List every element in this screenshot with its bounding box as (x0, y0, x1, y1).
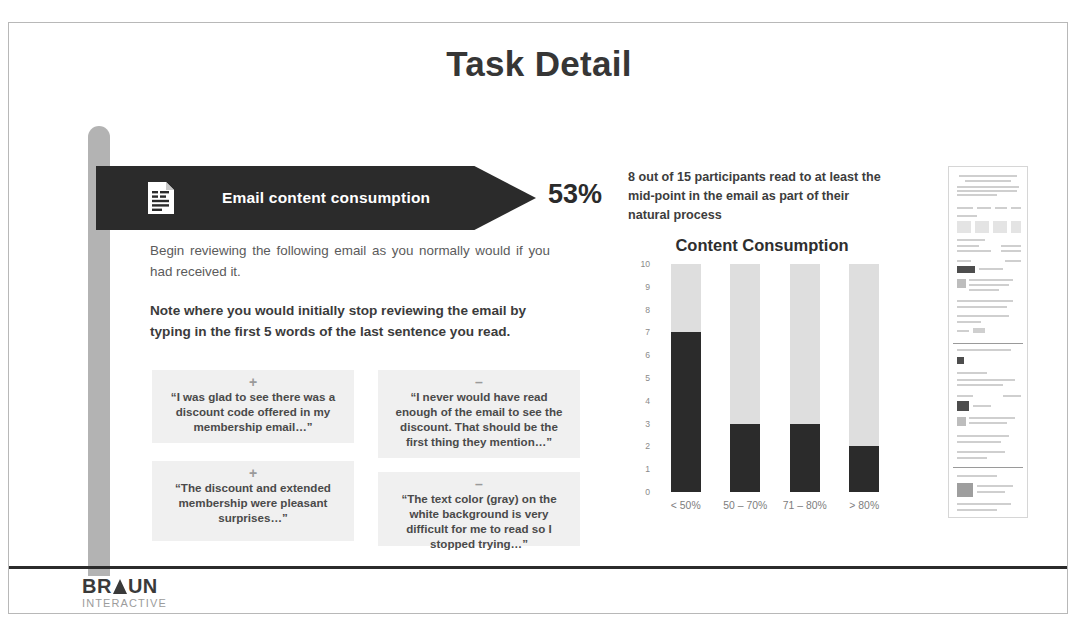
thumbnail-text-line (969, 279, 1013, 281)
thumbnail-text-line (957, 441, 1001, 443)
logo-tagline: INTERACTIVE (82, 597, 262, 610)
chart-y-tick: 5 (645, 373, 650, 383)
quote-sentiment-sign: + (162, 467, 344, 480)
thumbnail-text-line (957, 395, 973, 397)
quote-card: + “I was glad to see there was a discoun… (152, 370, 354, 443)
thumbnail-text-line (1001, 245, 1021, 247)
thumbnail-block (957, 279, 966, 288)
quote-text: “I was glad to see there was a discount … (162, 389, 344, 434)
thumbnail-text-line (1003, 395, 1021, 397)
thumbnail-text-line (957, 384, 1003, 386)
thumbnail-block (993, 221, 1007, 233)
thumbnail-text-line (1011, 207, 1021, 209)
thumbnail-text-line (977, 485, 1013, 487)
thumbnail-text-line (957, 239, 985, 241)
completion-percent: 53% (548, 179, 602, 210)
thumbnail-block (957, 417, 966, 426)
quote-text: “I never would have read enough of the e… (388, 389, 570, 449)
thumbnail-text-line (957, 503, 1011, 505)
chart-y-tick: 2 (645, 441, 650, 451)
thumbnail-text-line (957, 190, 1017, 192)
chart-x-tick-label: < 50% (671, 500, 701, 511)
chart-y-tick: 8 (645, 305, 650, 315)
thumbnail-text-line (969, 289, 999, 291)
thumbnail-text-line (957, 300, 1013, 302)
quote-text: “The discount and extended membership we… (162, 480, 344, 525)
quote-card: – “I never would have read enough of the… (378, 370, 580, 458)
thumbnail-text-line (977, 491, 1005, 493)
chart-bar (849, 264, 879, 492)
document-icon (148, 182, 174, 214)
thumbnail-block (957, 483, 973, 497)
chart-x-tick-label: 50 – 70% (723, 500, 767, 511)
thumbnail-text-line (957, 451, 1005, 453)
thumbnail-text-line (957, 457, 987, 459)
thumbnail-text-line (957, 330, 969, 332)
quote-card: + “The discount and extended membership … (152, 461, 354, 541)
thumbnail-text-line (969, 422, 1007, 424)
chart-bar-fill (730, 424, 760, 492)
task-instruction-paragraph: Begin reviewing the following email as y… (150, 240, 550, 282)
content-consumption-chart: 109876543210 < 50%50 – 70%71 – 80%> 80% (628, 264, 896, 520)
thumbnail-text-line (957, 245, 979, 247)
thumbnail-block (975, 221, 989, 233)
thumbnail-text-line (1001, 250, 1021, 252)
thumbnail-text-line (957, 509, 997, 511)
chart-x-tick-label: > 80% (849, 500, 879, 511)
chart-bar (790, 264, 820, 492)
logo-wordmark: BR UN (82, 576, 262, 596)
chart-bar (730, 264, 760, 492)
quote-sentiment-sign: – (388, 478, 570, 491)
chart-y-tick: 10 (640, 259, 650, 269)
thumbnail-text-line (995, 207, 1007, 209)
thumbnail-text-line (957, 194, 997, 196)
chart-y-tick: 6 (645, 350, 650, 360)
chart-bar-fill (849, 446, 879, 492)
chart-x-tick-label: 71 – 80% (783, 500, 827, 511)
thumbnail-text-line (957, 372, 987, 374)
thumbnail-block (957, 221, 971, 233)
quote-text: “The text color (gray) on the white back… (388, 491, 570, 551)
chart-bar-fill (671, 332, 701, 492)
quote-sentiment-sign: – (388, 376, 570, 389)
chart-bar (671, 264, 701, 492)
braun-interactive-logo: BR UN INTERACTIVE (82, 576, 262, 610)
chart-plot-area (656, 264, 894, 492)
stat-blurb: 8 out of 15 participants read to at leas… (628, 168, 890, 225)
quote-card: – “The text color (gray) on the white ba… (378, 472, 580, 546)
chart-y-tick: 0 (645, 487, 650, 497)
page-title: Task Detail (0, 44, 1078, 84)
chart-bar-fill (790, 424, 820, 492)
task-banner-label: Email content consumption (222, 189, 430, 207)
task-instruction-note: Note where you would initially stop revi… (150, 300, 560, 342)
thumbnail-block (957, 266, 975, 273)
chart-y-tick: 9 (645, 282, 650, 292)
footer-divider (9, 566, 1067, 569)
thumbnail-text-line (957, 315, 1009, 317)
thumbnail-text-line (957, 207, 973, 209)
thumbnail-text-line (965, 180, 1011, 182)
thumbnail-text-line (957, 321, 981, 323)
thumbnail-text-line (957, 260, 971, 262)
thumbnail-divider (953, 467, 1023, 468)
thumbnail-text-line (969, 284, 1009, 286)
logo-text-part2: UN (128, 576, 158, 596)
thumbnail-block (957, 401, 969, 411)
chart-y-axis: 109876543210 (628, 264, 652, 492)
thumbnail-divider (953, 343, 1023, 344)
quote-sentiment-sign: + (162, 376, 344, 389)
thumbnail-text-line (959, 175, 1017, 177)
thumbnail-text-line (957, 435, 1009, 437)
thumbnail-text-line (957, 250, 991, 252)
chart-y-tick: 7 (645, 327, 650, 337)
thumbnail-block (973, 328, 985, 333)
chart-y-tick: 3 (645, 419, 650, 429)
thumbnail-text-line (973, 405, 991, 407)
email-screenshot-thumbnail (948, 166, 1028, 518)
task-banner: Email content consumption (96, 166, 536, 230)
thumbnail-text-line (957, 215, 977, 217)
thumbnail-block (957, 357, 964, 364)
thumbnail-text-line (957, 475, 997, 477)
thumbnail-text-line (979, 268, 1003, 270)
thumbnail-block (1011, 221, 1021, 233)
